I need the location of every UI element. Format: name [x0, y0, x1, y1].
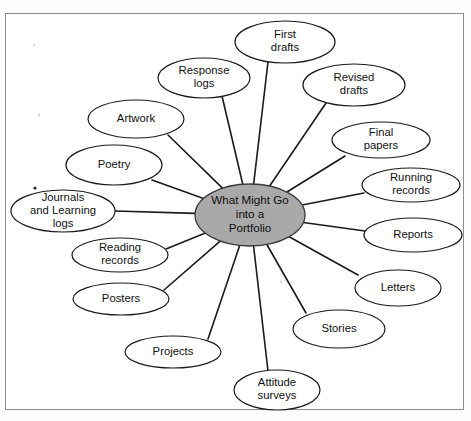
node-poetry[interactable]: Poetry [66, 145, 162, 185]
node-reports[interactable]: Reports [364, 218, 462, 252]
center-node-label: into a [236, 207, 265, 220]
spoke-line-letters [289, 237, 358, 275]
node-attitude-surveys-label: Attitude [258, 376, 296, 388]
node-first-drafts[interactable]: Firstdrafts [235, 21, 335, 63]
node-journals[interactable]: Journalsand Learninglogs [11, 190, 115, 232]
node-reports-label: Reports [393, 228, 433, 240]
node-revised-drafts-label: Revised [334, 71, 375, 83]
node-reading-records[interactable]: Readingrecords [72, 238, 168, 272]
node-projects-label: Projects [153, 345, 194, 357]
node-posters-label: Posters [102, 292, 141, 304]
node-response-logs[interactable]: Responselogs [158, 58, 250, 98]
spoke-line-stories [267, 245, 306, 313]
node-revised-drafts[interactable]: Reviseddrafts [303, 64, 405, 106]
node-first-drafts-label: First [274, 28, 297, 40]
paper-dust-mark [444, 169, 446, 171]
node-poetry-label: Poetry [98, 158, 131, 170]
node-attitude-surveys[interactable]: Attitudesurveys [234, 370, 320, 410]
node-running-records-label: Running [390, 171, 432, 183]
spoke-line-projects [208, 245, 240, 339]
center-node-label: What Might Go [211, 193, 288, 206]
node-letters-label: Letters [381, 281, 416, 293]
node-stories-label: Stories [321, 322, 357, 334]
node-response-logs-label: Response [179, 64, 230, 76]
node-posters[interactable]: Posters [73, 283, 169, 315]
spoke-line-response-logs [222, 96, 243, 184]
node-projects[interactable]: Projects [125, 336, 221, 368]
diagram-canvas: FirstdraftsResponselogsReviseddraftsArtw… [0, 0, 471, 421]
node-journals-label: and Learning [30, 204, 96, 216]
spoke-line-artwork [168, 135, 222, 188]
spoke-line-reports [303, 222, 365, 231]
paper-dust-mark [33, 44, 35, 46]
node-running-records[interactable]: Runningrecords [362, 168, 460, 202]
node-first-drafts-label: drafts [271, 41, 300, 53]
concept-map-svg: FirstdraftsResponselogsReviseddraftsArtw… [0, 0, 471, 421]
node-journals-label: Journals [42, 191, 85, 203]
node-artwork[interactable]: Artwork [88, 100, 184, 138]
spoke-line-attitude-surveys [254, 246, 268, 371]
spoke-line-journals [115, 211, 195, 213]
spoke-line-posters [164, 241, 220, 290]
node-reading-records-label: records [101, 254, 139, 266]
spoke-line-final-papers [287, 156, 345, 192]
node-running-records-label: records [392, 184, 430, 196]
node-reading-records-label: Reading [99, 241, 141, 253]
spoke-line-poetry [152, 180, 204, 198]
node-final-papers-label: Final [369, 126, 394, 138]
node-final-papers-label: papers [364, 139, 399, 151]
node-revised-drafts-label: drafts [340, 84, 369, 96]
ink-speck [33, 186, 36, 189]
node-stories[interactable]: Stories [293, 310, 385, 348]
paper-dust-mark [280, 281, 283, 284]
node-journals-label: logs [53, 217, 74, 229]
node-response-logs-label: logs [194, 77, 215, 89]
node-letters[interactable]: Letters [355, 270, 441, 306]
spoke-line-running-records [302, 193, 364, 205]
spoke-line-first-drafts [254, 62, 268, 184]
node-artwork-label: Artwork [117, 112, 156, 124]
center-node-group[interactable]: What Might Gointo aPortfolio [195, 184, 305, 246]
node-attitude-surveys-label: surveys [258, 389, 297, 401]
center-node-label: Portfolio [229, 221, 272, 234]
spoke-line-reading-records [166, 233, 205, 249]
paper-dust-mark [38, 114, 41, 117]
node-final-papers[interactable]: Finalpapers [332, 122, 430, 158]
